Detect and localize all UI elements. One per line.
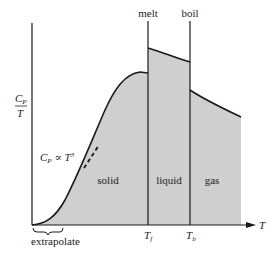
tf-sub: f — [150, 235, 153, 243]
law-rest: ∝ T — [52, 151, 72, 163]
tb-sub: b — [192, 235, 196, 243]
liquid-region — [148, 48, 190, 225]
solid-label: solid — [97, 174, 119, 186]
melt-label: melt — [138, 7, 158, 19]
liquid-label: liquid — [156, 174, 182, 186]
heat-capacity-diagram: melt boil solid liquid gas CP T CP ∝ T3 … — [0, 0, 277, 258]
y-label-numerator-sub: P — [21, 98, 27, 106]
y-label-denominator: T — [17, 107, 24, 119]
solid-region — [32, 72, 148, 225]
x-axis-arrow-icon — [246, 222, 256, 228]
melt-temperature-label: Tf — [144, 229, 153, 243]
gas-label: gas — [205, 174, 220, 186]
svg-text:CP: CP — [15, 92, 27, 106]
y-axis-label: CP T — [15, 92, 27, 119]
boil-label: boil — [181, 7, 198, 19]
boil-temperature-label: Tb — [186, 229, 196, 243]
x-axis-label: T — [259, 219, 266, 231]
law-exp: 3 — [70, 151, 75, 159]
extrapolate-brace — [33, 228, 63, 235]
extrapolate-label: extrapolate — [31, 235, 80, 247]
gas-region — [190, 90, 241, 225]
t-cubed-law-label: CP ∝ T3 — [40, 151, 75, 165]
